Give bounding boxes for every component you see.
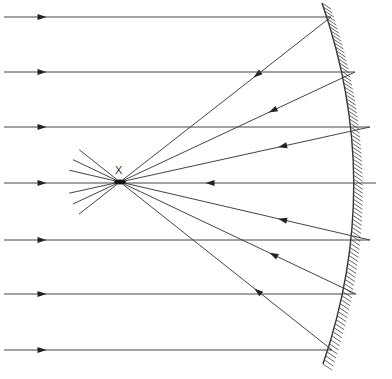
mirror-hatch <box>327 352 336 358</box>
focal-point <box>114 180 126 185</box>
mirror-hatch <box>323 364 332 370</box>
incident-arrow-icon <box>38 14 47 20</box>
mirror-hatch <box>326 356 335 362</box>
incident-arrow-icon <box>38 69 47 75</box>
incident-arrow-icon <box>38 291 47 297</box>
ray-diagram: X <box>0 0 392 379</box>
reflected-ray <box>79 17 331 214</box>
reflected-arrow-icon <box>278 142 287 148</box>
incident-arrow-icon <box>38 124 47 130</box>
mirror-hatch <box>332 336 341 342</box>
mirror-hatch <box>331 340 340 346</box>
reflected-arrow-icon <box>254 288 263 296</box>
reflected-arrow-icon <box>269 253 278 260</box>
mirror-hatch <box>324 360 333 366</box>
reflected-ray <box>79 150 332 350</box>
incident-arrow-icon <box>38 180 47 186</box>
incident-arrow-icon <box>38 347 47 353</box>
mirror-hatch <box>334 328 343 334</box>
focus-label: X <box>115 164 122 176</box>
reflected-arrow-icon <box>278 218 287 224</box>
reflected-arrow-icon <box>269 106 278 113</box>
reflected-arrow-icon <box>206 180 215 186</box>
diagram-canvas <box>0 0 392 379</box>
reflected-arrow-icon <box>254 70 263 78</box>
mirror-hatch <box>333 332 342 338</box>
incident-arrow-icon <box>38 237 47 243</box>
mirror-hatch <box>328 348 337 354</box>
